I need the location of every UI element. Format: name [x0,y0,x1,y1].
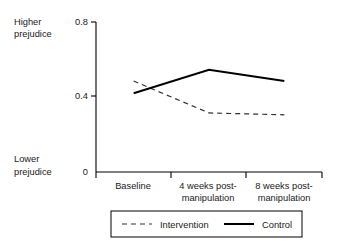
x-category-label-8weeks-line2: manipulation [258,193,311,203]
higher-prejudice-label-line2: prejudice [14,29,52,39]
line-chart: 0.8 0.4 0 Higher prejudice Lower prejudi… [0,0,340,247]
legend-label-intervention: Intervention [160,220,209,230]
x-category-label-baseline: Baseline [115,181,151,191]
x-category-label-4weeks-line1: 4 weeks post- [179,181,236,191]
series-line-control [134,70,285,93]
higher-prejudice-label-line1: Higher [14,17,41,27]
lower-prejudice-label-line1: Lower [14,154,39,164]
lower-prejudice-label-line2: prejudice [14,167,52,177]
y-tick-label-04: 0.4 [75,91,88,101]
x-category-label-8weeks-line1: 8 weeks post- [255,181,312,191]
x-category-label-4weeks-line2: manipulation [182,193,235,203]
y-tick-label-08: 0.8 [75,17,88,27]
legend-label-control: Control [262,220,292,230]
y-tick-label-0: 0 [83,167,88,177]
chart-container: 0.8 0.4 0 Higher prejudice Lower prejudi… [0,0,340,247]
